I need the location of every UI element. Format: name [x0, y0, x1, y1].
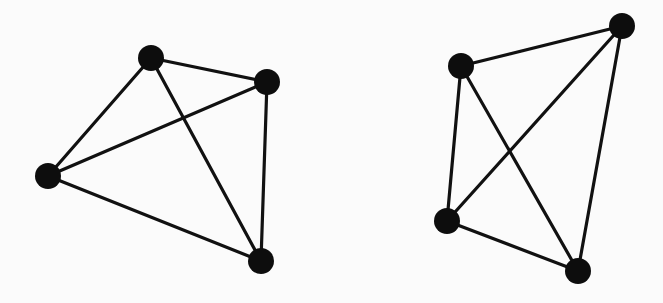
diagram-canvas [0, 0, 663, 303]
edge-E-F [461, 26, 622, 66]
edge-B-D [261, 82, 267, 261]
node-E [448, 53, 474, 79]
edge-F-H [578, 26, 622, 271]
edge-A-D [151, 58, 261, 261]
node-D [248, 248, 274, 274]
edge-A-B [151, 58, 267, 82]
right-graph [434, 13, 635, 284]
node-B [254, 69, 280, 95]
node-G [434, 208, 460, 234]
edge-B-C [48, 82, 267, 176]
edge-E-G [447, 66, 461, 221]
node-F [609, 13, 635, 39]
node-H [565, 258, 591, 284]
edge-C-D [48, 176, 261, 261]
node-C [35, 163, 61, 189]
edge-G-H [447, 221, 578, 271]
edge-A-C [48, 58, 151, 176]
node-A [138, 45, 164, 71]
left-graph [35, 45, 280, 274]
